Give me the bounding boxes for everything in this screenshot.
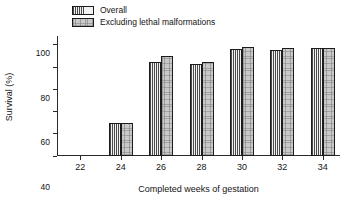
- x-axis-title: Completed weeks of gestation: [57, 184, 340, 194]
- survival-bar-chart: Overall Excluding lethal malformations S…: [0, 0, 346, 206]
- bar-26-series-0: [149, 62, 161, 156]
- bar-24-series-0: [109, 123, 121, 156]
- y-axis-tick-label: 40: [41, 182, 50, 192]
- x-axis-tick-label: 26: [156, 162, 166, 172]
- y-axis-tick: 20: [53, 133, 57, 134]
- chart-legend: Overall Excluding lethal malformations: [72, 5, 292, 31]
- y-axis-tick-label: 80: [41, 93, 50, 103]
- x-axis-tick: [242, 156, 243, 160]
- y-axis-tick: 100: [53, 44, 57, 45]
- bar-24-series-1: [121, 123, 133, 156]
- bar-28-series-1: [202, 62, 214, 156]
- x-axis-tick-label: 24: [116, 162, 126, 172]
- x-axis-tick-label: 30: [237, 162, 247, 172]
- bar-32-series-1: [282, 48, 294, 156]
- y-axis-line: [57, 36, 58, 156]
- y-axis-title: Survival (%): [2, 36, 16, 157]
- y-axis-tick: 80: [53, 67, 57, 68]
- x-axis-tick-label: 28: [196, 162, 206, 172]
- x-axis-tick: [161, 156, 162, 160]
- x-axis-tick: [282, 156, 283, 160]
- y-axis-tick: 0: [53, 156, 57, 157]
- legend-label-excluding: Excluding lethal malformations: [100, 18, 215, 27]
- y-axis-title-text: Survival (%): [4, 72, 14, 121]
- legend-swatch-excluding-icon: [72, 18, 94, 27]
- legend-label-overall: Overall: [100, 6, 127, 15]
- x-axis-tick: [80, 156, 81, 160]
- bar-30-series-1: [242, 47, 254, 156]
- x-axis-tick: [202, 156, 203, 160]
- x-axis-tick: [323, 156, 324, 160]
- x-axis-title-text: Completed weeks of gestation: [138, 184, 259, 194]
- y-axis-tick: 60: [53, 89, 57, 90]
- y-axis-tick-label: 60: [41, 137, 50, 147]
- bar-30-series-0: [230, 49, 242, 156]
- bar-34-series-0: [311, 48, 323, 156]
- bar-34-series-1: [323, 48, 335, 156]
- y-axis-tick: 40: [53, 111, 57, 112]
- plot-area: 020406080100 22242628303234: [57, 36, 340, 157]
- x-axis-tick: [121, 156, 122, 160]
- x-axis-tick-label: 34: [318, 162, 328, 172]
- x-axis-tick-label: 22: [75, 162, 85, 172]
- y-axis-tick-label: 100: [36, 48, 50, 58]
- legend-item-excluding-lethal-malformations: Excluding lethal malformations: [72, 17, 215, 28]
- bar-28-series-0: [190, 64, 202, 156]
- legend-item-overall: Overall: [72, 5, 127, 16]
- bar-32-series-0: [270, 50, 282, 156]
- bar-26-series-1: [161, 56, 173, 156]
- legend-swatch-overall-icon: [72, 6, 94, 15]
- x-axis-tick-label: 32: [277, 162, 287, 172]
